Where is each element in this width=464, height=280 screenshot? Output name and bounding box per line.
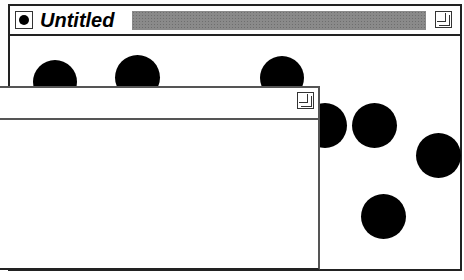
window-title: Untitled	[40, 9, 114, 32]
zoom-box-icon[interactable]	[435, 11, 452, 28]
back-window-titlebar[interactable]: Untitled	[10, 6, 460, 36]
circle-shape[interactable]	[361, 194, 406, 239]
front-window-titlebar[interactable]	[0, 88, 318, 120]
zoom-box-icon[interactable]	[297, 92, 314, 109]
close-box-icon[interactable]	[15, 11, 33, 29]
title-bar-drag-area[interactable]	[132, 11, 426, 30]
circle-shape[interactable]	[416, 133, 461, 178]
circle-shape[interactable]	[352, 103, 397, 148]
front-window[interactable]	[0, 86, 320, 270]
